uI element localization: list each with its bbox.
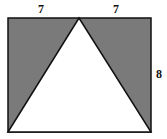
label-top-left: 7 <box>38 2 44 16</box>
geometry-diagram: 7 7 8 <box>0 0 167 139</box>
label-top-right: 7 <box>113 2 119 16</box>
label-right-side: 8 <box>156 67 162 81</box>
